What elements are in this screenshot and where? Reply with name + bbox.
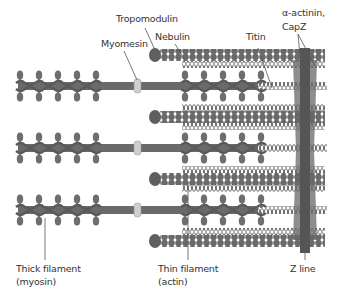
myomesin-markers (134, 79, 141, 217)
label-thick-filament-myosin: (myosin) (16, 276, 56, 287)
label-myomesin: Myomesin (101, 38, 148, 49)
label-thick-filament: Thick filament (16, 263, 81, 274)
label-capz: CapZ (282, 21, 306, 32)
label-z-line: Z line (290, 263, 315, 274)
label-tropomodulin: Tropomodulin (116, 13, 178, 24)
label-titin: Titin (246, 31, 266, 42)
thick-filaments (16, 71, 327, 226)
z-line-bar (300, 48, 310, 253)
label-thin-filament-actin: (actin) (158, 276, 187, 287)
sarcomere-diagram (0, 0, 340, 295)
label-thin-filament: Thin filament (158, 263, 218, 274)
label-alpha-actinin: α-actinin, (282, 7, 325, 18)
label-nebulin: Nebulin (155, 31, 190, 42)
